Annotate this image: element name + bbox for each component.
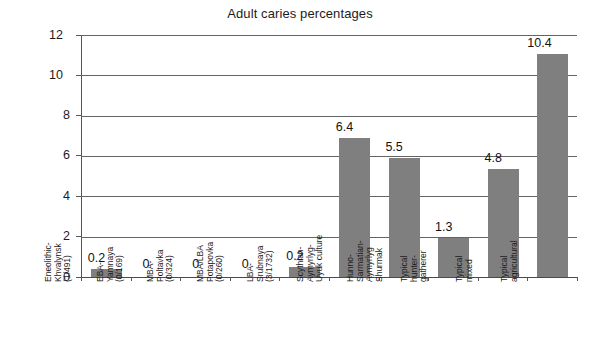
category-label-hunno-sarmatian-aymyrlyg-shurmak: Hunno- Sarmatian- Aymyrlyg Shurmak	[346, 162, 384, 282]
bar-value-scythian-aymyrlyg-uyuk: 6.4	[319, 121, 370, 134]
y-tick-label-12: 12	[33, 29, 63, 42]
x-tick-10	[577, 277, 578, 281]
category-label-typical-mixed: Typical mixed	[455, 162, 474, 282]
bar-value-hunno-sarmatian-aymyrlyg-shurmak: 5.5	[369, 141, 420, 154]
bar-value-typical-agricultural: 10.4	[514, 37, 565, 50]
y-tick-label-6: 6	[40, 149, 70, 162]
x-tick-5	[329, 277, 330, 281]
category-label-typical-agricultural: Typical agricultural	[500, 162, 519, 282]
gridline-8	[81, 116, 577, 117]
category-label-mba-lba-potapovka: MBA/LBA Potapovka (0/260)	[196, 162, 225, 282]
y-tick-label-10: 10	[33, 69, 63, 82]
category-label-scythian-aymyrlyg-uyuk: Scythian- Aymyrlyg- Uyuk culture	[296, 162, 325, 282]
chart-title: Adult caries percentages	[0, 6, 600, 21]
category-label-mba-poltavka: MBA- Poltavka (0/324)	[146, 162, 175, 282]
category-label-typical-hunter-gatherer: Typical hunter- gatherer	[400, 162, 429, 282]
category-label-eba-yamnaya: EBA- Yamnaya (0/169)	[96, 162, 125, 282]
gridline-10	[81, 75, 577, 76]
x-tick-4	[279, 277, 280, 281]
gridline-12	[81, 35, 577, 36]
x-tick-2	[180, 277, 181, 281]
x-tick-3	[230, 277, 231, 281]
bar-typical-agricultural[interactable]	[537, 54, 568, 277]
y-tick-label-8: 8	[40, 109, 70, 122]
x-tick-9	[527, 277, 528, 281]
x-tick-1	[131, 277, 132, 281]
x-tick-0	[81, 277, 82, 281]
category-label-eneolithic-khvalynsk: Eneolithic- Khvalynsk (1/491)	[44, 162, 73, 282]
x-tick-8	[478, 277, 479, 281]
bar-chart: Adult caries percentages 0 2 4 6 8 10 12…	[0, 0, 600, 352]
category-label-lba-srubnaya: LBA- Srubnaya (3/1732)	[246, 162, 275, 282]
